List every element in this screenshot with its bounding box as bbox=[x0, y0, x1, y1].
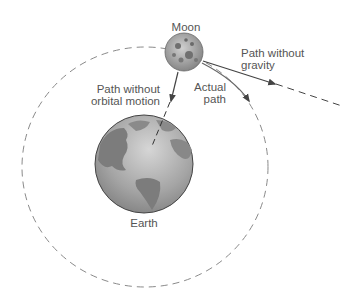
moon-label: Moon bbox=[168, 21, 204, 33]
moon-orbit-diagram bbox=[0, 0, 364, 301]
path-without-orbital-motion-label: Path without orbital motion bbox=[86, 83, 160, 107]
actual-path-label: Actual path bbox=[192, 81, 226, 105]
label-line: orbital motion bbox=[86, 95, 160, 107]
label-line: Path without bbox=[241, 47, 304, 59]
earth bbox=[95, 115, 193, 213]
earth-label: Earth bbox=[124, 217, 164, 229]
label-line: path bbox=[192, 93, 226, 105]
label-line: Actual bbox=[192, 81, 226, 93]
path-without-gravity-label: Path without gravity bbox=[241, 47, 304, 71]
label-line: gravity bbox=[241, 59, 304, 71]
label-line: Path without bbox=[86, 83, 160, 95]
moon bbox=[165, 33, 203, 71]
